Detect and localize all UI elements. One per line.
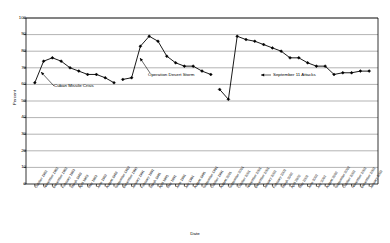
data-point-marker (359, 70, 362, 73)
plot-area (0, 0, 390, 243)
data-point-marker (42, 60, 45, 63)
data-point-marker (130, 76, 133, 79)
annotation-arrowhead-icon (261, 74, 264, 77)
data-point-marker (209, 73, 212, 76)
data-point-marker (236, 35, 239, 38)
data-point-marker (86, 73, 89, 76)
approval-rating-line-chart: Percent 0102030405060708090100 October 1… (0, 0, 390, 243)
data-point-marker (368, 70, 371, 73)
chart-annotation-label: September 11 Attacks (273, 72, 316, 77)
chart-annotation-label: Cuban Missile Crisis (54, 83, 94, 88)
data-point-marker (33, 81, 36, 84)
annotation-arrowhead-icon (140, 58, 143, 61)
data-point-marker (77, 70, 80, 73)
data-point-marker (95, 73, 98, 76)
data-point-marker (253, 40, 256, 43)
data-point-marker (350, 71, 353, 74)
data-point-marker (271, 46, 274, 49)
data-point-marker (183, 65, 186, 68)
chart-annotation-label: Operation Desert Storm (148, 72, 194, 77)
data-point-marker (341, 71, 344, 74)
data-point-marker (121, 78, 124, 81)
data-point-marker (245, 38, 248, 41)
data-point-marker (315, 65, 318, 68)
x-axis-title: Date (0, 231, 390, 236)
data-line-segment (35, 58, 114, 83)
data-point-marker (51, 56, 54, 59)
data-point-marker (262, 43, 265, 46)
